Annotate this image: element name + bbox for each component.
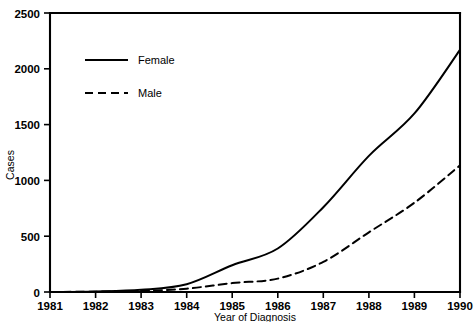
x-tick-label-1988: 1988 [356, 300, 382, 312]
y-tick-label-1500: 1500 [14, 119, 40, 131]
y-axis-title: Cases [4, 150, 16, 180]
y-tick-label-500: 500 [21, 231, 40, 243]
x-tick-label-1990: 1990 [447, 300, 473, 312]
y-tick-label-0: 0 [34, 287, 40, 299]
chart-background [0, 0, 476, 322]
x-axis-title: Year of Diagnosis [214, 311, 296, 322]
legend-label-female: Female [138, 54, 175, 66]
x-tick-label-1983: 1983 [128, 300, 154, 312]
x-tick-label-1984: 1984 [174, 300, 200, 312]
y-tick-label-2000: 2000 [14, 63, 40, 75]
legend-label-male: Male [138, 87, 162, 99]
x-tick-label-1989: 1989 [402, 300, 428, 312]
chart-figure: 2500 2000 1500 1000 500 0 1981 1982 1983… [0, 0, 476, 322]
line-chart: 2500 2000 1500 1000 500 0 1981 1982 1983… [0, 0, 476, 322]
y-tick-label-1000: 1000 [14, 175, 40, 187]
x-tick-label-1987: 1987 [311, 300, 337, 312]
x-tick-label-1982: 1982 [83, 300, 109, 312]
x-tick-label-1981: 1981 [37, 300, 63, 312]
y-tick-label-2500: 2500 [14, 8, 40, 20]
